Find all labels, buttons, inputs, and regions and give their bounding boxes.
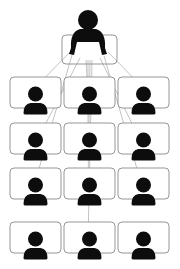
connection-line xyxy=(34,55,72,186)
team-member-node xyxy=(118,77,169,115)
connection-line xyxy=(104,56,142,186)
team-member-node xyxy=(64,222,115,260)
team-member-node xyxy=(10,168,61,206)
team-member-node xyxy=(10,123,61,161)
team-member-node xyxy=(118,123,169,161)
team-member-node xyxy=(118,222,169,260)
team-member-node xyxy=(64,168,115,206)
team-member-node xyxy=(64,123,115,161)
org-hierarchy-diagram xyxy=(0,0,180,269)
team-member-node xyxy=(10,222,61,260)
person-at-desk-icon xyxy=(69,10,107,55)
team-member-node xyxy=(64,77,115,115)
supervisor-node xyxy=(62,10,117,64)
team-member-node xyxy=(118,168,169,206)
team-member-grid xyxy=(10,77,169,260)
